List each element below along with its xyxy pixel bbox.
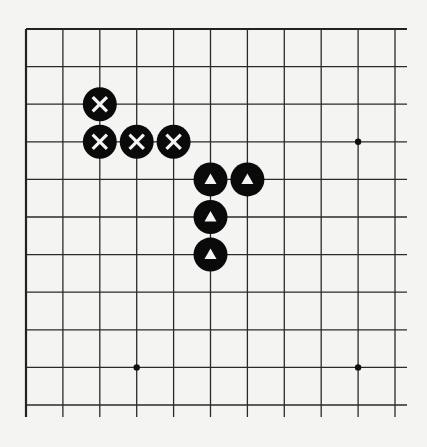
star-point-icon [355,364,361,370]
black-stone-triangle-marked [194,200,228,234]
black-stone-triangle-marked [230,162,264,196]
go-board [0,0,427,447]
black-stone-x-marked [83,87,117,121]
black-stone-x-marked [120,125,154,159]
black-stone-x-marked [157,125,191,159]
black-stone-triangle-marked [194,162,228,196]
black-stone-x-marked [83,125,117,159]
black-stone-triangle-marked [194,238,228,272]
go-board-diagram [0,0,427,447]
star-point-icon [134,364,140,370]
star-point-icon [355,139,361,145]
